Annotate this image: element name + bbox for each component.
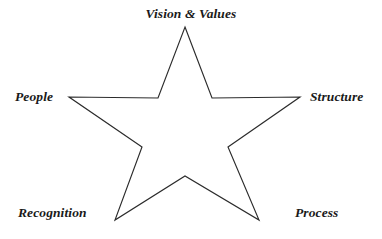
star-label-structure: Structure (310, 90, 363, 104)
star-label-process: Process (295, 206, 338, 220)
star-diagram: Vision & Values Structure Process Recogn… (0, 0, 382, 239)
star-label-recognition: Recognition (18, 206, 87, 220)
star-label-people: People (15, 90, 53, 104)
star-label-vision-values: Vision & Values (0, 7, 382, 21)
star-shape (0, 0, 382, 239)
star-outline-polygon (69, 27, 300, 220)
